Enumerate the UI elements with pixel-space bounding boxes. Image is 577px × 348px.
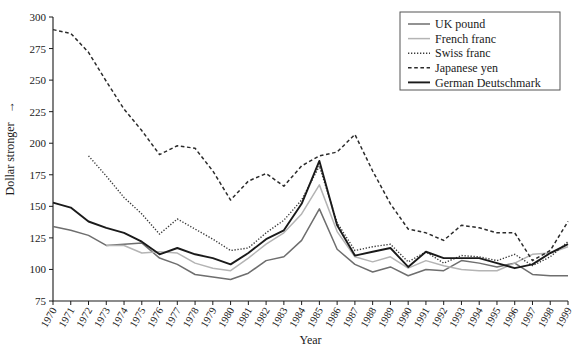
legend-label-french-franc: French franc — [435, 32, 496, 46]
x-tick-label: 1995 — [483, 306, 503, 330]
y-tick-label: 150 — [30, 200, 47, 212]
y-axis-title: Dollar stronger — [3, 123, 17, 196]
legend-label-japanese-yen: Japanese yen — [435, 61, 498, 75]
x-tick-label: 1994 — [465, 305, 485, 329]
x-tick-label: 1984 — [287, 305, 307, 329]
x-tick-label: 1993 — [447, 306, 467, 330]
x-tick-label: 1997 — [518, 306, 538, 330]
y-tick-label: 100 — [30, 263, 47, 275]
x-tick-label: 1977 — [163, 306, 183, 330]
legend-label-uk-pound: UK pound — [435, 17, 485, 31]
x-tick-label: 1999 — [554, 306, 574, 330]
y-tick-label: 250 — [30, 74, 47, 86]
fx-line-chart: 7510012515017520022525027530019701971197… — [0, 0, 577, 348]
x-tick-label: 1973 — [92, 306, 112, 330]
chart-svg: 7510012515017520022525027530019701971197… — [0, 0, 577, 348]
y-axis-arrow-icon: → — [3, 101, 17, 113]
x-tick-label: 1990 — [394, 306, 414, 330]
x-tick-label: 1983 — [270, 306, 290, 330]
x-tick-label: 1974 — [110, 305, 130, 329]
x-tick-label: 1975 — [127, 306, 147, 330]
x-tick-label: 1981 — [234, 306, 254, 330]
x-tick-label: 1985 — [305, 306, 325, 330]
x-tick-label: 1970 — [39, 306, 59, 330]
legend-label-swiss-franc: Swiss franc — [435, 46, 491, 60]
y-tick-label: 175 — [30, 169, 47, 181]
y-tick-label: 300 — [30, 11, 47, 23]
legend-layer: UK poundFrench francSwiss francJapanese … — [400, 12, 560, 90]
y-tick-label: 275 — [30, 43, 47, 55]
x-axis-title: Year — [299, 333, 321, 347]
x-tick-label: 1972 — [74, 306, 94, 330]
x-tick-label: 1971 — [56, 306, 76, 330]
x-tick-label: 1991 — [412, 306, 432, 330]
series-line-swiss-franc — [89, 156, 568, 266]
x-tick-label: 1982 — [252, 306, 272, 330]
x-tick-label: 1979 — [199, 306, 219, 330]
y-tick-label: 75 — [35, 295, 47, 307]
x-tick-label: 1996 — [500, 306, 520, 330]
y-tick-label: 125 — [30, 232, 47, 244]
x-tick-label: 1978 — [181, 306, 201, 330]
x-tick-label: 1980 — [216, 306, 236, 330]
y-axis-title-group: Dollar stronger→ — [3, 101, 17, 195]
series-line-french-franc — [106, 185, 568, 271]
y-tick-label: 225 — [30, 106, 47, 118]
x-tick-label: 1992 — [429, 306, 449, 330]
x-tick-label: 1998 — [536, 306, 556, 330]
x-tick-label: 1976 — [145, 306, 165, 330]
x-tick-label: 1988 — [358, 306, 378, 330]
y-tick-label: 200 — [30, 137, 47, 149]
legend-label-german-deutschmark: German Deutschmark — [435, 76, 541, 90]
x-tick-label: 1986 — [323, 306, 343, 330]
x-tick-label: 1989 — [376, 306, 396, 330]
series-line-uk-pound — [53, 209, 568, 280]
series-line-german-deutschmark — [53, 161, 568, 268]
x-tick-label: 1987 — [341, 306, 361, 330]
